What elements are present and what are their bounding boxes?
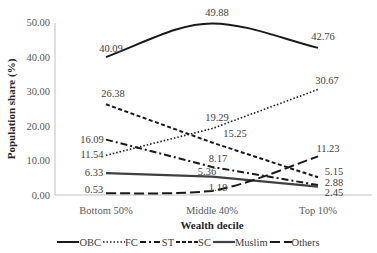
data-label: 11.23 (316, 143, 339, 154)
data-label: 1.18 (209, 182, 227, 193)
legend-swatch-solid-icon (57, 238, 79, 246)
data-label: 5.15 (325, 166, 343, 177)
legend-swatch-solid-gray-icon (213, 238, 235, 246)
data-label: 19.29 (205, 112, 229, 123)
x-tick-labels: Bottom 50% Middle 40% Top 10% (79, 205, 337, 216)
y-axis-title: Population share (%) (5, 58, 18, 159)
x-axis-title: Wealth decile (180, 219, 243, 231)
data-label: 49.88 (205, 7, 229, 18)
legend-swatch-longdash-icon (270, 238, 292, 246)
data-label: 42.76 (311, 31, 335, 42)
legend-item-sc: SC (176, 237, 211, 248)
legend-label: FC (125, 237, 138, 248)
legend-item-obc: OBC (57, 237, 101, 248)
legend-item-others: Others (270, 237, 320, 248)
legend-label: SC (198, 237, 211, 248)
y-tick: 30.00 (26, 86, 50, 97)
data-label: 15.25 (223, 128, 247, 139)
legend-swatch-dashed-icon (176, 238, 198, 246)
data-label: 26.38 (101, 88, 125, 99)
y-tick: 50.00 (26, 17, 50, 28)
chart-legend: OBC FC ST SC Muslim Others (0, 234, 377, 250)
series-obc-line (106, 23, 318, 57)
legend-item-muslim: Muslim (213, 237, 268, 248)
legend-label: Muslim (235, 237, 268, 248)
data-label: 16.09 (80, 134, 104, 145)
legend-swatch-dashdot-icon (140, 238, 162, 246)
legend-label: Others (292, 237, 320, 248)
data-label: 6.33 (85, 167, 103, 178)
x-tick: Top 10% (299, 205, 337, 216)
legend-label: ST (162, 237, 174, 248)
data-label: 40.09 (99, 43, 123, 54)
legend-item-st: ST (140, 237, 174, 248)
y-tick: 40.00 (26, 52, 50, 63)
x-tick: Bottom 50% (79, 205, 133, 216)
y-tick-labels: 0.00 10.00 20.00 30.00 40.00 50.00 (26, 17, 50, 200)
legend-swatch-dotted-icon (103, 238, 125, 246)
y-tick: 20.00 (26, 121, 50, 132)
data-label: 5.36 (198, 166, 216, 177)
data-label: 30.67 (315, 75, 339, 86)
data-label: 2.45 (325, 187, 343, 198)
x-tick: Middle 40% (186, 205, 238, 216)
legend-item-fc: FC (103, 237, 138, 248)
legend-label: OBC (79, 237, 101, 248)
y-tick: 0.00 (32, 190, 50, 201)
data-label: 11.54 (80, 149, 104, 160)
y-tick: 10.00 (26, 155, 50, 166)
data-label: 0.53 (85, 184, 103, 195)
data-labels: 40.09 49.88 42.76 11.54 19.29 30.67 16.0… (80, 7, 343, 198)
line-chart: 0.00 10.00 20.00 30.00 40.00 50.00 Botto… (0, 0, 377, 253)
data-label: 8.17 (209, 153, 227, 164)
